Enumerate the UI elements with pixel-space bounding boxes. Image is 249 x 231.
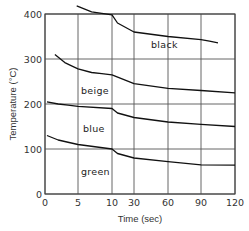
label-blue: blue (83, 123, 105, 134)
x-axis-title: Time (sec) (118, 213, 163, 224)
label-green: green (81, 166, 110, 177)
x-tick-label: 60 (162, 197, 174, 208)
label-black: black (151, 39, 178, 50)
y-axis-ticks: 0100200300400 (24, 9, 42, 200)
y-axis-title: Temperature (°C) (7, 68, 18, 141)
x-tick-label: 0 (42, 197, 48, 208)
series-lines (47, 6, 235, 165)
y-tick-label: 300 (24, 54, 42, 65)
y-tick-label: 0 (36, 189, 42, 200)
y-tick-label: 200 (24, 99, 42, 110)
series-line-blue (47, 102, 235, 127)
temperature-chart: 0510306090120 0100200300400 black beige … (0, 0, 249, 231)
y-tick-label: 400 (24, 9, 42, 20)
series-line-green (47, 136, 235, 166)
series-line-black (77, 6, 218, 43)
label-beige: beige (81, 85, 109, 96)
x-tick-label: 10 (106, 197, 118, 208)
x-axis-ticks: 0510306090120 (42, 197, 244, 208)
x-tick-label: 30 (128, 197, 140, 208)
x-tick-label: 120 (226, 197, 244, 208)
x-tick-label: 90 (195, 197, 207, 208)
x-tick-label: 5 (75, 197, 81, 208)
y-tick-label: 100 (24, 144, 42, 155)
